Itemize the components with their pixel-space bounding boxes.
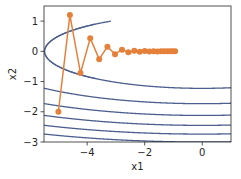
contour-line bbox=[45, 21, 111, 49]
y-axis-ticks: 10−1−2−3 bbox=[23, 16, 44, 148]
y-tick-label: −1 bbox=[23, 76, 38, 87]
contour-lines bbox=[44, 21, 231, 142]
trajectory-point bbox=[172, 48, 178, 54]
contour-line bbox=[44, 134, 231, 142]
trajectory-point bbox=[104, 44, 110, 50]
trajectory-point bbox=[131, 48, 137, 54]
trajectory-point bbox=[67, 12, 73, 18]
x-tick-label: −4 bbox=[80, 147, 95, 158]
contour-line bbox=[44, 115, 231, 125]
contour-line bbox=[44, 125, 231, 134]
contour-line bbox=[44, 104, 231, 116]
contour-line bbox=[44, 88, 231, 103]
x-axis-ticks: −4−20 bbox=[80, 142, 206, 158]
x-axis-label: x1 bbox=[131, 161, 143, 172]
trajectory-point bbox=[125, 49, 131, 55]
trajectory-point bbox=[119, 47, 125, 53]
trajectory-point bbox=[96, 56, 102, 62]
chart-canvas: −4−20 10−1−2−3 x1 x2 bbox=[0, 0, 241, 179]
x-tick-label: −2 bbox=[137, 147, 152, 158]
y-tick-label: −2 bbox=[23, 106, 38, 117]
trajectory-point bbox=[55, 109, 61, 115]
trajectory-point bbox=[112, 51, 118, 57]
y-tick-label: −3 bbox=[23, 137, 38, 148]
x-tick-label: 0 bbox=[199, 147, 205, 158]
y-tick-label: 1 bbox=[32, 16, 38, 27]
y-axis-label: x2 bbox=[7, 68, 18, 80]
trajectory-point bbox=[77, 70, 83, 76]
contour-line bbox=[45, 24, 96, 78]
trajectory-point bbox=[87, 35, 93, 41]
contour-line bbox=[45, 54, 231, 89]
y-tick-label: 0 bbox=[32, 46, 38, 57]
